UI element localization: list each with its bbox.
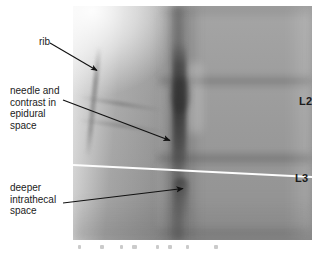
lamina-highlight <box>187 62 203 134</box>
figure-container: L2 L3 rib needle and contrast in epidura… <box>0 0 312 253</box>
intrathecal-contrast <box>174 178 188 220</box>
image-label-l3: L3 <box>295 173 308 184</box>
epidural-contrast-blob <box>172 78 189 112</box>
callout-rib: rib <box>0 36 50 48</box>
image-label-l2: L2 <box>299 96 312 107</box>
callout-needle-contrast: needle and contrast in epidural space <box>10 85 74 131</box>
callout-deeper-intrathecal: deeper intrathecal space <box>10 182 74 217</box>
fluoroscopic-spine-image: L2 L3 <box>73 6 312 240</box>
bottom-shadow <box>73 194 312 240</box>
caption-fragment-row <box>74 245 254 251</box>
